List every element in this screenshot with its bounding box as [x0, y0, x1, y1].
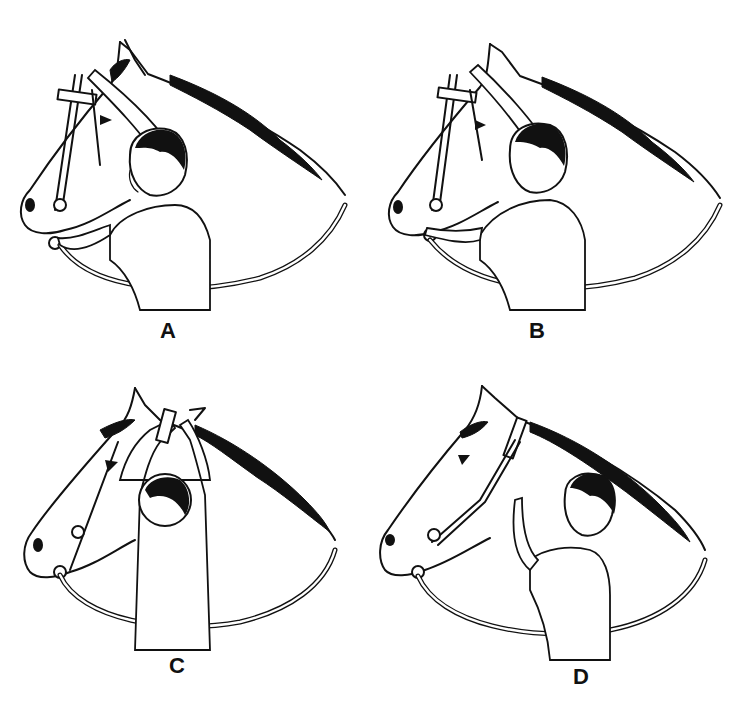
horse-bridling-illustration-c [0, 380, 360, 650]
horse-bridling-illustration-d [370, 380, 743, 660]
panel-a: A [0, 30, 360, 310]
horse-bridling-illustration-b [370, 30, 743, 310]
panel-label-a: A [160, 318, 176, 344]
panel-label-c: C [169, 653, 185, 679]
horse-bridling-illustration-a [0, 30, 360, 310]
panel-b: B [370, 30, 743, 310]
panel-d: D [370, 380, 743, 660]
panel-label-b: B [529, 318, 545, 344]
panel-label-d: D [573, 664, 589, 690]
panel-c: C [0, 380, 360, 650]
